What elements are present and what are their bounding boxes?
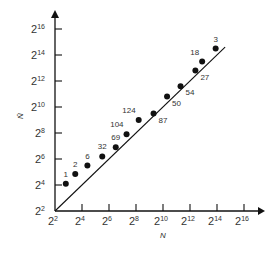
x-tick-label: 214 (208, 215, 222, 227)
data-point-label: 3 (213, 35, 218, 44)
data-point-label: 2 (73, 160, 78, 169)
data-point-label: 124 (122, 106, 136, 115)
y-axis-label: N̂ (16, 113, 25, 119)
data-point-label: 50 (172, 99, 181, 108)
data-point (192, 68, 198, 74)
data-point (72, 171, 78, 177)
x-tick-label: 28 (129, 215, 139, 227)
y-tick-label: 216 (31, 23, 45, 35)
data-point (124, 131, 130, 137)
y-tick-label: 26 (35, 153, 45, 165)
data-point-label: 87 (159, 116, 168, 125)
data-point (99, 153, 105, 159)
data-point-label: 27 (200, 73, 209, 82)
data-point (113, 144, 119, 150)
x-tick-label: 22 (48, 215, 58, 227)
data-point-label: 32 (98, 142, 107, 151)
data-point (63, 181, 69, 187)
data-point-label: 18 (190, 48, 199, 57)
y-tick-label: 24 (35, 179, 45, 191)
y-tick-label: 22 (35, 205, 45, 217)
x-tick-label: 212 (181, 215, 195, 227)
data-point-label: 104 (110, 120, 124, 129)
data-points: 126326910412487505427183 (63, 35, 219, 187)
data-point (199, 59, 205, 65)
y-tick-label: 214 (31, 49, 45, 61)
data-point-label: 1 (64, 170, 69, 179)
data-point (178, 83, 184, 89)
x-axis-arrow-icon (258, 207, 265, 215)
data-point-label: 69 (111, 133, 120, 142)
x-tick-label: 210 (154, 215, 168, 227)
data-point (213, 46, 219, 52)
data-point (84, 163, 90, 169)
x-ticks: 22242628210212214216 (48, 204, 249, 227)
x-tick-label: 24 (75, 215, 85, 227)
y-axis-arrow-icon (51, 10, 59, 18)
data-point (151, 111, 157, 117)
x-axis-label: N (160, 231, 166, 240)
x-tick-label: 26 (102, 215, 112, 227)
x-tick-label: 216 (235, 215, 249, 227)
data-point-label: 54 (186, 88, 195, 97)
y-tick-label: 210 (31, 101, 45, 113)
data-point (136, 117, 142, 123)
y-tick-label: 28 (35, 127, 45, 139)
data-point-label: 6 (85, 152, 90, 161)
scatter-chart: 22242628210212214216 2224262821021221421… (0, 0, 275, 254)
y-ticks: 22242628210212214216 (31, 23, 62, 217)
y-tick-label: 212 (31, 75, 45, 87)
data-point (164, 94, 170, 100)
